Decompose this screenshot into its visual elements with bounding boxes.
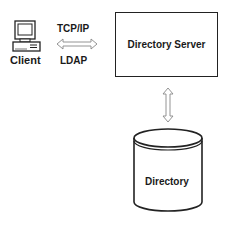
double-headed-horizontal-arrow <box>56 38 98 50</box>
cylinder-database-icon <box>131 128 205 214</box>
protocol-tcpip-label: TCP/IP <box>57 23 89 34</box>
client-label: Client <box>10 54 41 66</box>
desktop-computer-icon <box>12 20 42 53</box>
protocol-ldap-label: LDAP <box>60 55 87 66</box>
directory-server-box: Directory Server <box>115 12 218 77</box>
directory-label: Directory <box>145 176 189 187</box>
double-headed-vertical-arrow <box>162 87 174 123</box>
directory-server-label: Directory Server <box>128 39 206 50</box>
